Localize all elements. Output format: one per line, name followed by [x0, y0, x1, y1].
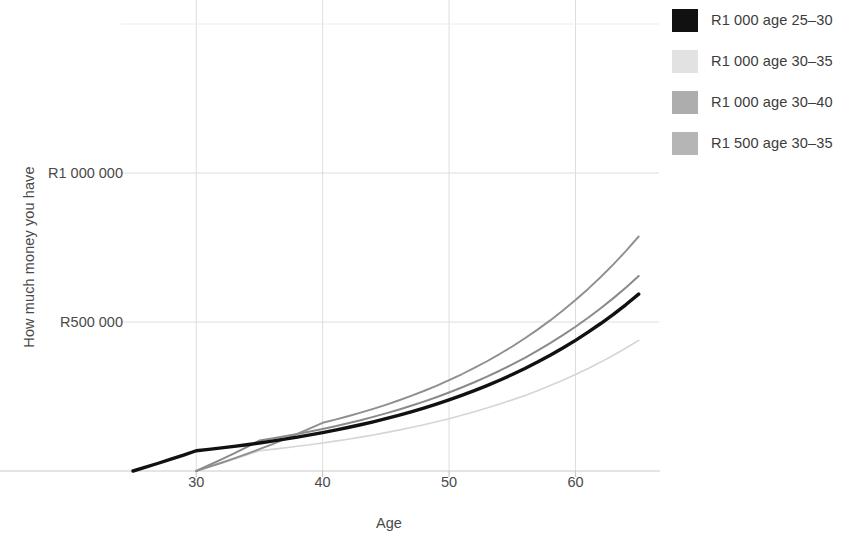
legend-label: R1 000 age 25–30	[711, 12, 833, 28]
legend-item[interactable]: R1 000 age 25–30	[672, 8, 868, 32]
legend-swatch-icon	[672, 9, 698, 32]
x-tick-label-50: 50	[441, 474, 457, 490]
legend-label: R1 000 age 30–35	[711, 53, 833, 69]
legend-swatch-icon	[672, 132, 698, 155]
y-tick-label-1000000: R1 000 000	[48, 165, 123, 181]
x-tick-label-40: 40	[315, 474, 331, 490]
chart-legend: R1 000 age 25–30 R1 000 age 30–35 R1 000…	[672, 8, 868, 172]
x-axis-title: Age	[133, 515, 645, 531]
y-tick-labels: R1 000 000 R500 000	[0, 0, 123, 545]
x-tick-label-60: 60	[567, 474, 583, 490]
legend-label: R1 500 age 30–35	[711, 135, 833, 151]
legend-item[interactable]: R1 500 age 30–35	[672, 131, 868, 155]
legend-label: R1 000 age 30–40	[711, 94, 833, 110]
y-tick-label-500000: R500 000	[60, 314, 123, 330]
legend-item[interactable]: R1 000 age 30–40	[672, 90, 868, 114]
legend-swatch-icon	[672, 91, 698, 114]
chart-page: R1 000 000 R500 000 30 40 50 60 How much…	[0, 0, 868, 545]
legend-item[interactable]: R1 000 age 30–35	[672, 49, 868, 73]
legend-swatch-icon	[672, 50, 698, 73]
x-tick-label-30: 30	[188, 474, 204, 490]
y-axis-title: How much money you have	[21, 132, 37, 382]
